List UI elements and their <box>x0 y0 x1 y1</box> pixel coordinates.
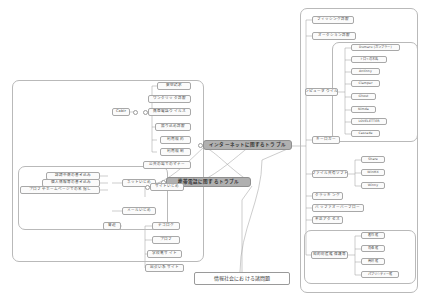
virus-child-1[interactable]: トロイの木馬 <box>351 56 387 63</box>
bullying-site-child-0[interactable]: デコログ <box>152 222 180 230</box>
root-node[interactable]: 情報社会における諸問題 <box>194 272 290 285</box>
mobile-item-3[interactable]: 振り込め詐欺 <box>155 123 191 131</box>
mobile-item-2-child-cabir[interactable]: Cabir <box>112 108 130 116</box>
internet-cracking[interactable]: クラッキング <box>312 192 343 200</box>
ip-rights-child-1[interactable]: 肖像権 <box>361 245 385 252</box>
internet-auction-fraud[interactable]: オークション詐欺 <box>312 32 356 40</box>
bullying-site-child-1[interactable]: プロフ <box>152 236 180 244</box>
internet-unauthorized-access[interactable]: 不正アクセス <box>312 216 343 224</box>
bullying-site-child-2[interactable]: 学校裏サイト <box>147 250 182 258</box>
mobile-item-1[interactable]: ワンクリック詐欺 <box>148 95 191 103</box>
central-node-internet-connector <box>198 143 203 148</box>
mind-map-canvas: 情報社会における諸問題 インターネットに関するトラブル 携帯電話に関するトラブル… <box>0 0 421 305</box>
mobile-item-5[interactable]: 利用規制 <box>160 148 191 156</box>
virus-child-6[interactable]: LOVELETTER <box>351 118 387 125</box>
bullying-site-child-3[interactable]: 出会い系サイト <box>145 264 184 272</box>
bullying-site[interactable]: サイトいじめ <box>150 183 184 191</box>
virus-child-3[interactable]: Clamper <box>351 80 380 87</box>
file-sharing-child-1[interactable]: WinMX <box>361 169 385 176</box>
file-sharing-child-0[interactable]: Share <box>361 156 385 163</box>
bullying-net-child-2[interactable]: プロフやホームページでの名指し <box>20 186 100 194</box>
bullying-mail[interactable]: メールいじめ <box>122 207 156 215</box>
central-node-internet[interactable]: インターネットに関するトラブル <box>203 140 292 150</box>
virus-child-2[interactable]: Antinny <box>351 68 380 75</box>
virus-child-5[interactable]: Nimda <box>351 106 376 113</box>
virus-child-0[interactable]: Dumaru (ガンブラー) <box>351 44 400 51</box>
bullying-site-connector <box>145 185 150 190</box>
ip-rights-child-2[interactable]: 商標権 <box>361 258 385 265</box>
internet-keylogger[interactable]: キーロガー <box>312 136 340 144</box>
internet-ip-rights[interactable]: 知的財産権保護等 <box>311 251 348 259</box>
internet-phishing[interactable]: フィッシング詐欺 <box>312 16 354 24</box>
virus-child-7[interactable]: Cascade <box>351 130 380 137</box>
mobile-virus-connector <box>143 110 148 115</box>
internet-buffer-overflow[interactable]: バッファオーバーフロー <box>312 204 364 212</box>
mobile-item-0[interactable]: 架空請求 <box>157 82 191 90</box>
mobile-item-4[interactable]: 利用規約 <box>160 136 191 144</box>
internet-file-sharing[interactable]: ファイル共有ソフト <box>312 170 348 178</box>
file-sharing-child-2[interactable]: Winny <box>361 182 385 189</box>
mobile-item-6[interactable]: 公共の場でのマナー <box>143 161 191 169</box>
bullying-mail-child-0[interactable]: 脅迫 <box>103 222 121 230</box>
mobile-item-2[interactable]: 携帯電話ウイルス <box>148 108 191 116</box>
ip-rights-child-0[interactable]: 著作権 <box>361 232 385 239</box>
internet-virus[interactable]: コンピュータウイルス <box>305 88 338 96</box>
virus-child-4[interactable]: Ghost <box>351 93 376 100</box>
ip-rights-child-3[interactable]: パブリシティー権 <box>361 271 399 278</box>
cabir-connector <box>133 110 138 115</box>
